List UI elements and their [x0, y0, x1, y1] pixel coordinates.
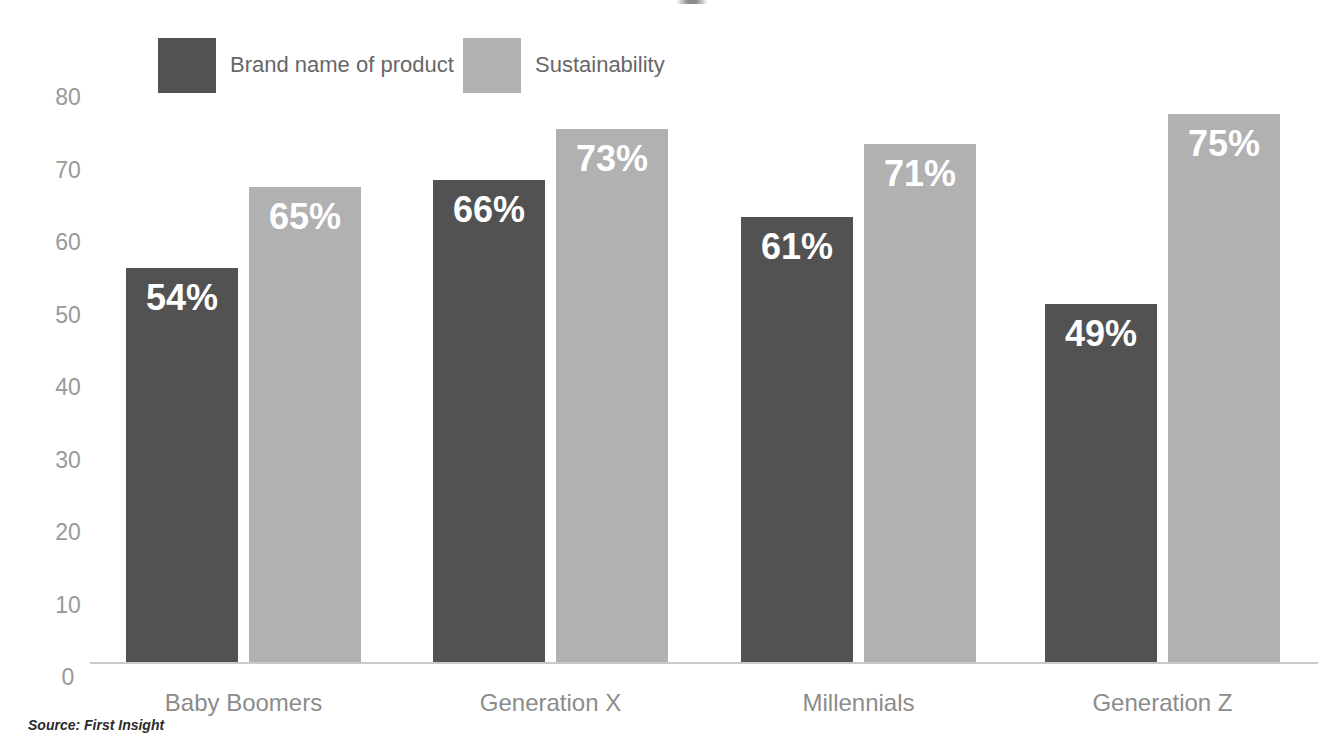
x-category-label-millennials: Millennials — [709, 689, 1009, 717]
x-category-label-generation-z: Generation Z — [1013, 689, 1313, 717]
x-axis-line — [90, 662, 1318, 664]
legend-label-brand-name: Brand name of product — [230, 52, 454, 78]
legend-swatch-brand-name — [158, 38, 216, 93]
bar-value-label: 71% — [864, 153, 976, 195]
y-tick-label-60: 60 — [38, 229, 98, 255]
y-tick-label-50: 50 — [38, 302, 98, 328]
x-category-label-baby-boomers: Baby Boomers — [94, 689, 394, 717]
bar-brand-name-of-product-millennials: 61% — [741, 217, 853, 662]
y-tick-label-30: 30 — [38, 447, 98, 473]
bar-value-label: 49% — [1045, 313, 1157, 355]
bar-chart-canvas: Brand name of product Sustainability 010… — [0, 0, 1344, 750]
bar-value-label: 75% — [1168, 123, 1280, 165]
bar-value-label: 65% — [249, 196, 361, 238]
bar-value-label: 73% — [556, 138, 668, 180]
cropped-title-fragment — [676, 0, 708, 4]
source-note: Source: First Insight — [28, 717, 164, 733]
bar-brand-name-of-product-baby-boomers: 54% — [126, 268, 238, 662]
legend-item-brand-name: Brand name of product — [158, 37, 454, 93]
bar-brand-name-of-product-generation-x: 66% — [433, 180, 545, 662]
y-tick-label-40: 40 — [38, 374, 98, 400]
legend-label-sustainability: Sustainability — [535, 52, 665, 78]
y-tick-label-70: 70 — [38, 157, 98, 183]
legend-swatch-sustainability — [463, 38, 521, 93]
bar-value-label: 66% — [433, 189, 545, 231]
bar-sustainability-millennials: 71% — [864, 144, 976, 662]
bar-value-label: 54% — [126, 277, 238, 319]
bar-sustainability-generation-x: 73% — [556, 129, 668, 662]
y-tick-label-80: 80 — [38, 84, 98, 110]
y-tick-label-0: 0 — [38, 664, 98, 690]
y-tick-label-20: 20 — [38, 519, 98, 545]
bar-sustainability-baby-boomers: 65% — [249, 187, 361, 662]
bar-brand-name-of-product-generation-z: 49% — [1045, 304, 1157, 662]
y-tick-label-10: 10 — [38, 592, 98, 618]
bar-value-label: 61% — [741, 226, 853, 268]
legend-item-sustainability: Sustainability — [463, 37, 665, 93]
x-category-label-generation-x: Generation X — [401, 689, 701, 717]
bar-sustainability-generation-z: 75% — [1168, 114, 1280, 662]
